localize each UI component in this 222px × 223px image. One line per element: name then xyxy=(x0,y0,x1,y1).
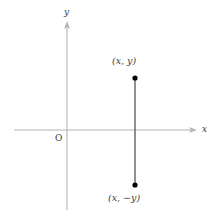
origin-label: O xyxy=(55,134,62,143)
x-axis-label: x xyxy=(202,125,207,134)
lower-point-label: (x, −y) xyxy=(108,193,140,203)
upper-point-label: (x, y) xyxy=(112,56,136,66)
axes-and-plot-svg xyxy=(0,0,222,223)
upper-point-marker xyxy=(132,75,137,80)
lower-point-marker xyxy=(132,182,137,187)
coordinate-plane-figure: y x O (x, y) (x, −y) xyxy=(0,0,222,223)
y-axis-label: y xyxy=(64,8,69,17)
